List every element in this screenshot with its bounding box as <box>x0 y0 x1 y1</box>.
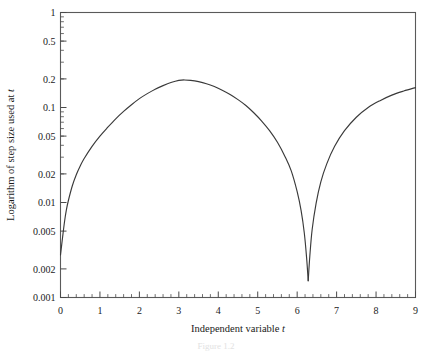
y-axis-tick-label: 0.02 <box>38 169 56 180</box>
y-axis-tick-label: 0.2 <box>43 74 56 85</box>
x-axis-tick-label: 8 <box>374 305 379 316</box>
y-axis-tick-label: 0.005 <box>33 226 56 237</box>
y-axis-tick-label: 1 <box>51 7 56 18</box>
y-axis-tick-label: 0.5 <box>43 36 56 47</box>
y-axis-title: Logarithm of step size used at t <box>5 88 16 221</box>
x-axis-tick-label: 4 <box>216 305 221 316</box>
x-axis-tick-label: 7 <box>334 305 339 316</box>
x-axis-tick-label: 6 <box>295 305 300 316</box>
y-axis-tick-label: 0.01 <box>38 197 56 208</box>
chart-plot: 10.50.20.10.050.020.010.0050.0020.001012… <box>0 0 432 352</box>
x-axis-tick-label: 2 <box>137 305 142 316</box>
y-axis-tick-label: 0.001 <box>33 292 56 303</box>
x-axis-tick-label: 5 <box>255 305 260 316</box>
y-axis-title-variable: t <box>5 88 16 92</box>
x-axis-tick-label: 9 <box>413 305 418 316</box>
x-axis-title: Independent variable t <box>191 323 286 334</box>
x-axis-tick-label: 1 <box>97 305 102 316</box>
data-curve-left <box>61 80 309 281</box>
y-axis-tick-label: 0.1 <box>43 102 56 113</box>
x-axis-tick-label: 3 <box>176 305 181 316</box>
y-axis-tick-label: 0.002 <box>33 264 56 275</box>
y-axis-title-group: Logarithm of step size used at t <box>5 88 16 221</box>
figure-caption: Figure 1.2 <box>198 341 235 351</box>
x-axis-title-variable: t <box>282 323 286 334</box>
data-curve-right <box>308 88 415 281</box>
y-axis-tick-label: 0.05 <box>38 131 56 142</box>
figure-container: 10.50.20.10.050.020.010.0050.0020.001012… <box>0 0 432 352</box>
x-axis-tick-label: 0 <box>58 305 63 316</box>
plot-frame <box>61 13 416 298</box>
